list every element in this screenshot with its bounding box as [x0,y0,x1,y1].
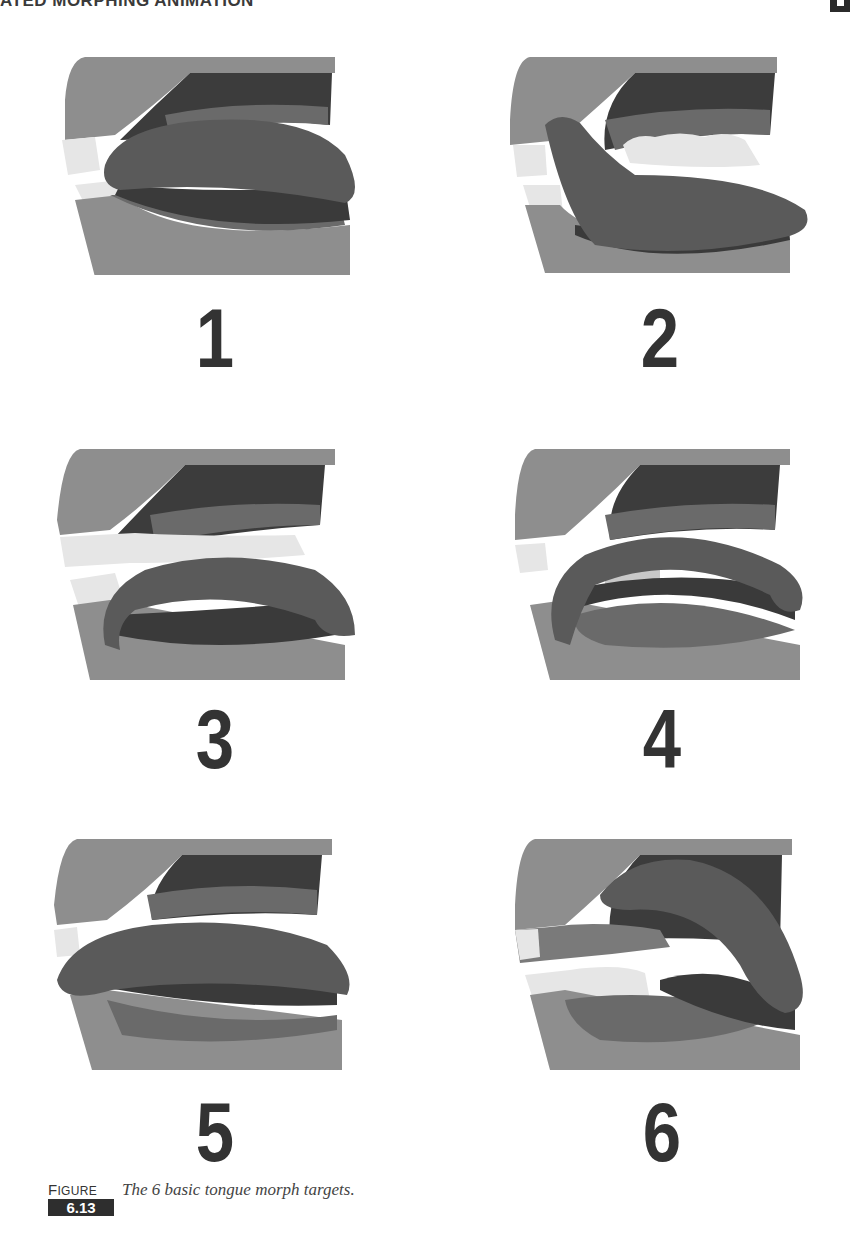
mouth-illustration-4 [510,445,810,685]
mouth-illustration-6 [510,835,820,1075]
panel-number-1: 1 [186,296,243,380]
mouth-illustration-2 [505,45,815,275]
morph-panel-5 [52,835,352,1075]
morph-panel-4 [510,445,810,685]
upper-molars [623,134,760,168]
upper-incisor [515,929,540,960]
panel-number-4: 4 [633,697,690,781]
figure-number-badge: 6.13 [48,1199,114,1216]
panel-number-5: 5 [186,1090,243,1174]
upper-teeth [62,137,100,175]
mouth-illustration-5 [52,835,352,1075]
morph-panel-1 [60,45,360,275]
morph-panel-3 [55,445,355,685]
mouth-illustration-3 [55,445,355,685]
running-head: ATED MORPHING ANIMATION [0,0,254,11]
panel-number-2: 2 [631,296,688,380]
panel-number-6: 6 [633,1090,690,1174]
morph-panel-2 [505,45,815,275]
upper-teeth [515,543,548,573]
upper-gum [147,886,317,920]
chapter-tab-icon [830,0,850,12]
panel-number-3: 3 [186,697,243,781]
upper-teeth [513,145,547,177]
figure-label-rest: IGURE [57,1184,97,1198]
mouth-illustration-1 [60,45,360,275]
figure-label: FIGURE [48,1181,97,1198]
morph-panel-6 [510,835,820,1075]
figure-caption: The 6 basic tongue morph targets. [122,1180,355,1200]
